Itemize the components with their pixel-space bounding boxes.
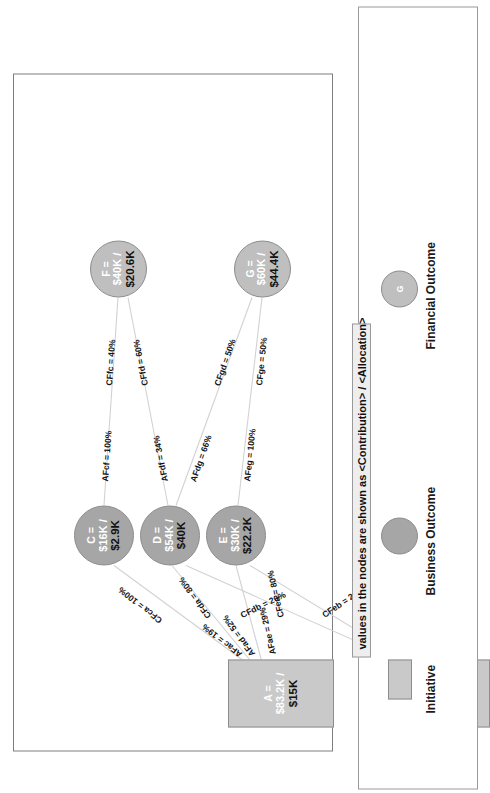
diagram-canvas: A = $83.2K / $15K B = $16.8K / $50K C = … [0,0,490,793]
node-financial-outcome-g[interactable]: G = $60K / $44.4K [234,240,291,297]
node-c-allocation: $2.9K [109,520,121,551]
node-c-contribution: $16K / [98,519,110,551]
node-e-contribution: $30K / [230,519,242,551]
node-a-contribution: $83.2K / [274,672,286,714]
legend-financial-outcome-swatch: G [381,270,418,307]
edge-d-g [176,297,252,505]
node-c-id: C = [86,527,97,544]
legend-initiative-label: Initiative [424,664,438,713]
node-business-outcome-e[interactable]: E = $30K / $22.2K [206,505,266,565]
legend-initiative-swatch [388,659,412,699]
legend-panel [358,6,478,789]
node-d-contribution: $54K / [164,519,176,551]
node-d-id: D = [152,527,163,544]
legend-financial-outcome-glyph: G [395,285,405,292]
node-business-outcome-c[interactable]: C = $16K / $2.9K [74,505,134,565]
node-d-allocation: $40K [175,521,187,549]
node-g-contribution: $60K / [256,252,268,284]
legend-value-format-note: values in the nodes are shown as <Contri… [352,323,371,657]
node-e-id: E = [218,527,229,543]
legend-business-outcome-label: Business Outcome [424,486,438,595]
node-e-allocation: $22.2K [241,516,253,553]
node-initiative-a[interactable]: A = $83.2K / $15K [228,659,334,727]
node-business-outcome-d[interactable]: D = $54K / $40K [140,505,200,565]
node-a-allocation: $15K [287,679,300,707]
rotated-diagram-layer: A = $83.2K / $15K B = $16.8K / $50K C = … [0,0,490,793]
node-g-allocation: $44.4K [268,250,280,287]
node-financial-outcome-f[interactable]: F = $40K / $20.6K [90,240,147,297]
legend-financial-outcome-label: Financial Outcome [424,242,438,349]
node-f-contribution: $40K / [112,252,124,284]
node-a-id: A = [263,685,275,701]
legend-business-outcome-swatch [381,517,418,554]
node-f-allocation: $20.6K [124,250,136,287]
